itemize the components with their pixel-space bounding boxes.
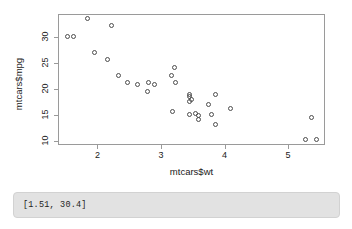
data-point[interactable] [303,137,308,142]
data-point[interactable] [116,73,121,78]
x-axis-title: mtcars$wt [58,167,325,177]
data-point[interactable] [173,80,178,85]
data-point[interactable] [213,92,218,97]
data-point[interactable] [146,80,151,85]
data-point[interactable] [65,34,70,39]
y-axis-title-label: mtcars$mpg [14,24,24,144]
scatter-plot-figure: 1015202530 2345 mtcars$mpg mtcars$wt [0,0,352,185]
data-point[interactable] [170,109,175,114]
y-axis-tick-label: 30 [41,29,50,45]
status-bar-text: [1.51, 30.4] [14,200,87,210]
data-point[interactable] [172,65,177,70]
y-axis-title: mtcars$mpg [14,79,24,89]
data-point[interactable] [125,80,130,85]
x-axis-tick [161,145,162,149]
data-point[interactable] [213,122,218,127]
data-point[interactable] [187,99,192,104]
data-point[interactable] [145,89,150,94]
y-axis-tick-label: 20 [41,81,50,97]
y-axis-tick-label: 15 [41,106,50,122]
x-axis-tick-label: 3 [151,151,171,160]
data-point[interactable] [109,23,114,28]
x-axis-tick-label: 5 [278,151,298,160]
x-axis-tick-label: 2 [87,151,107,160]
data-point[interactable] [92,50,97,55]
data-point[interactable] [105,57,110,62]
data-point[interactable] [85,16,90,21]
data-point[interactable] [309,115,314,120]
x-axis-tick [225,145,226,149]
data-point[interactable] [152,82,157,87]
status-bar[interactable]: [1.51, 30.4] [13,192,340,218]
data-point[interactable] [169,73,174,78]
data-point[interactable] [71,34,76,39]
data-point[interactable] [209,112,214,117]
data-point[interactable] [228,106,233,111]
data-point[interactable] [187,112,192,117]
x-axis-tick-label: 4 [215,151,235,160]
y-axis-tick-label: 25 [41,55,50,71]
x-axis-tick [97,145,98,149]
x-axis-tick [288,145,289,149]
y-axis-tick-label: 10 [41,132,50,148]
data-point[interactable] [206,102,211,107]
data-points-layer [59,15,324,144]
plot-area[interactable] [58,14,325,145]
data-point[interactable] [135,82,140,87]
data-point[interactable] [314,137,319,142]
